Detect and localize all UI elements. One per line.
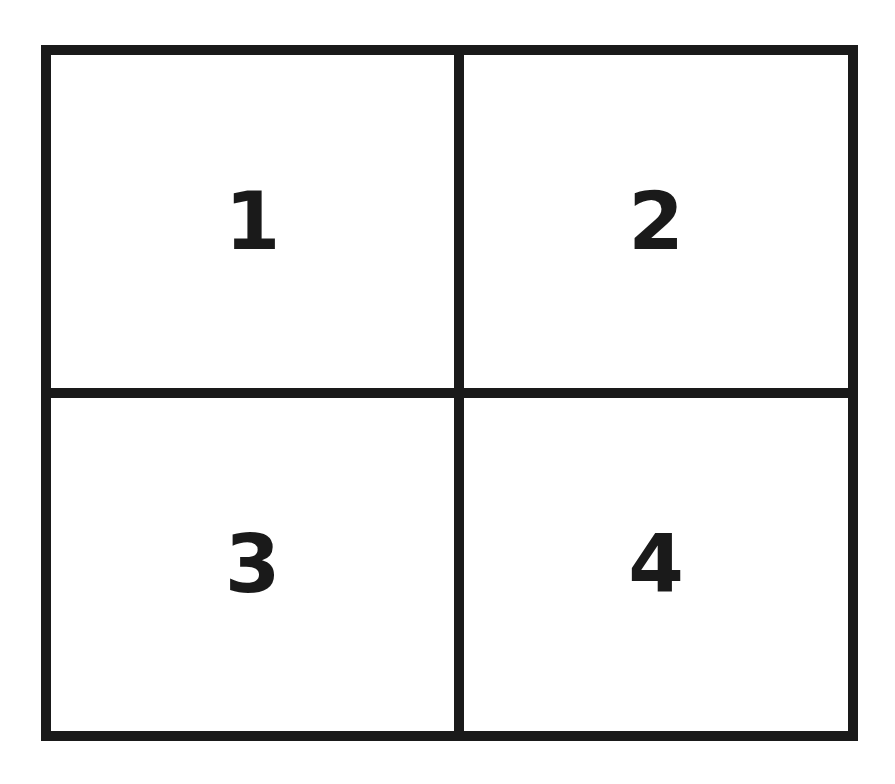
cell-label-4: 4 [628,525,684,605]
grid-cell-2: 2 [464,55,848,388]
horizontal-divider [51,388,848,398]
grid-frame: 1 2 3 4 [41,45,858,741]
cell-label-2: 2 [628,182,684,262]
grid-cell-3: 3 [51,398,454,731]
grid-cell-4: 4 [464,398,848,731]
grid-cell-1: 1 [51,55,454,388]
cell-label-3: 3 [225,525,281,605]
cell-label-1: 1 [225,182,281,262]
